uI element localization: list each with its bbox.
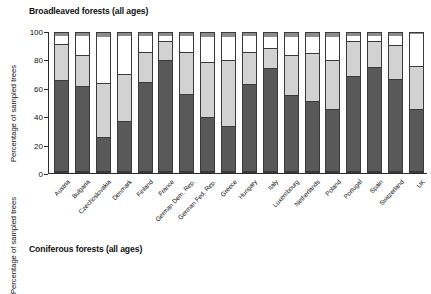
- bar-column-broadleaved: [367, 32, 382, 173]
- stacked-bar-broadleaved: [221, 32, 236, 173]
- y-tick-100: [44, 32, 48, 33]
- stacked-bar-broadleaved: [284, 32, 299, 173]
- stacked-bar-broadleaved: [138, 32, 153, 173]
- bar-segment-class-2-lightgrey: [285, 56, 298, 96]
- stacked-bar-broadleaved: [409, 32, 424, 173]
- bar-segment-class-2-lightgrey: [201, 63, 214, 118]
- x-axis-label: France: [157, 178, 175, 197]
- bar-segment-class-1-dark: [285, 96, 298, 172]
- stacked-bar-broadleaved: [75, 32, 90, 173]
- bar-segment-class-1-dark: [76, 87, 89, 172]
- y-tick-label-40: 40: [34, 113, 43, 122]
- bar-segment-class-3-white: [180, 36, 193, 53]
- bar-segment-class-1-dark: [55, 81, 68, 172]
- bar-group-broadleaved: [49, 32, 427, 173]
- bar-column-broadleaved: [179, 32, 194, 173]
- bar-segment-class-2-lightgrey: [326, 61, 339, 110]
- stacked-bar-broadleaved: [54, 32, 69, 173]
- bar-segment-class-3-white: [201, 37, 214, 62]
- bar-column-broadleaved: [54, 32, 69, 173]
- bar-segment-class-1-dark: [118, 122, 131, 172]
- y-tick-40: [44, 117, 48, 118]
- y-tick-label-100: 100: [30, 28, 43, 37]
- x-axis-label: Finland: [135, 178, 154, 198]
- bar-column-broadleaved: [263, 32, 278, 173]
- bar-segment-class-3-white: [55, 36, 68, 45]
- x-axis-label: Austria: [52, 178, 70, 197]
- y-tick-60: [44, 89, 48, 90]
- bar-segment-class-2-lightgrey: [139, 53, 152, 83]
- stacked-bar-broadleaved: [346, 32, 361, 173]
- stacked-bar-broadleaved: [179, 32, 194, 173]
- bar-segment-class-1-dark: [389, 80, 402, 172]
- bar-segment-class-1-dark: [201, 118, 214, 172]
- x-axis-label: Denmark: [111, 178, 134, 201]
- bar-column-broadleaved: [325, 32, 340, 173]
- bar-segment-class-2-lightgrey: [306, 54, 319, 101]
- bar-segment-class-2-lightgrey: [180, 53, 193, 95]
- x-axis-line-broadleaved: [48, 173, 427, 174]
- bar-segment-class-1-dark: [410, 110, 423, 172]
- bar-column-broadleaved: [200, 32, 215, 173]
- y-tick-0: [44, 174, 48, 175]
- bar-segment-class-2-lightgrey: [410, 67, 423, 110]
- bar-column-broadleaved: [388, 32, 403, 173]
- bar-segment-class-1-dark: [139, 83, 152, 172]
- bar-segment-class-3-white: [243, 36, 256, 53]
- bar-segment-class-1-dark: [368, 68, 381, 172]
- bar-segment-class-3-white: [139, 36, 152, 53]
- bar-segment-class-1-dark: [97, 138, 110, 172]
- bar-segment-class-3-white: [389, 36, 402, 47]
- bar-segment-class-2-lightgrey: [368, 42, 381, 67]
- bar-column-broadleaved: [242, 32, 257, 173]
- bar-column-broadleaved: [305, 32, 320, 173]
- bar-column-broadleaved: [75, 32, 90, 173]
- chart-title-coniferous: Coniferous forests (all ages): [29, 244, 142, 254]
- bar-segment-class-1-dark: [243, 85, 256, 172]
- y-tick-label-80: 80: [34, 56, 43, 65]
- bar-segment-class-2-lightgrey: [76, 56, 89, 87]
- bar-segment-class-3-white: [97, 37, 110, 84]
- bar-column-broadleaved: [138, 32, 153, 173]
- y-tick-label-0: 0: [39, 170, 43, 179]
- bar-column-broadleaved: [221, 32, 236, 173]
- bar-segment-class-3-white: [118, 36, 131, 75]
- x-axis-label: Greece: [218, 178, 237, 198]
- y-axis-title-broadleaved: Percentage of sampled trees: [9, 65, 18, 162]
- bar-column-broadleaved: [409, 32, 424, 173]
- stacked-bar-broadleaved: [117, 32, 132, 173]
- bar-segment-class-2-lightgrey: [118, 75, 131, 122]
- bar-segment-class-1-dark: [264, 69, 277, 172]
- bar-column-broadleaved: [158, 32, 173, 173]
- bar-segment-class-2-lightgrey: [222, 61, 235, 127]
- bar-segment-class-3-white: [306, 37, 319, 54]
- x-axis-label: German Fed. Rep.: [176, 178, 217, 221]
- y-axis-title-coniferous: Percentage of sampled trees: [9, 197, 18, 294]
- bar-segment-class-1-dark: [180, 95, 193, 172]
- bar-segment-class-1-dark: [326, 110, 339, 172]
- stacked-bar-broadleaved: [388, 32, 403, 173]
- stacked-bar-broadleaved: [96, 32, 111, 173]
- bar-segment-class-2-lightgrey: [264, 49, 277, 69]
- stacked-bar-broadleaved: [200, 32, 215, 173]
- bar-segment-class-1-dark: [306, 102, 319, 172]
- y-tick-label-20: 20: [34, 141, 43, 150]
- stacked-bar-broadleaved: [305, 32, 320, 173]
- chart-panel-coniferous: Coniferous forests (all ages) Percentage…: [0, 232, 431, 294]
- plot-area-broadleaved: 0 20 40 60 80 100: [48, 32, 427, 174]
- chart-title-broadleaved: Broadleaved forests (all ages): [29, 6, 148, 16]
- x-axis-label: Hungary: [237, 178, 258, 200]
- bar-segment-class-3-white: [222, 37, 235, 61]
- x-axis-label: UK: [415, 178, 426, 189]
- y-tick-label-60: 60: [34, 84, 43, 93]
- y-tick-20: [44, 146, 48, 147]
- bar-segment-class-2-lightgrey: [389, 46, 402, 80]
- bar-segment-class-1-dark: [159, 61, 172, 172]
- chart-panel-broadleaved: Broadleaved forests (all ages) Percentag…: [0, 0, 431, 232]
- bar-segment-class-3-white: [410, 34, 423, 66]
- bar-column-broadleaved: [346, 32, 361, 173]
- bar-segment-class-1-dark: [222, 127, 235, 172]
- bar-segment-class-2-lightgrey: [159, 42, 172, 61]
- x-axis-label: Italy: [266, 178, 279, 191]
- bar-segment-class-2-lightgrey: [347, 42, 360, 77]
